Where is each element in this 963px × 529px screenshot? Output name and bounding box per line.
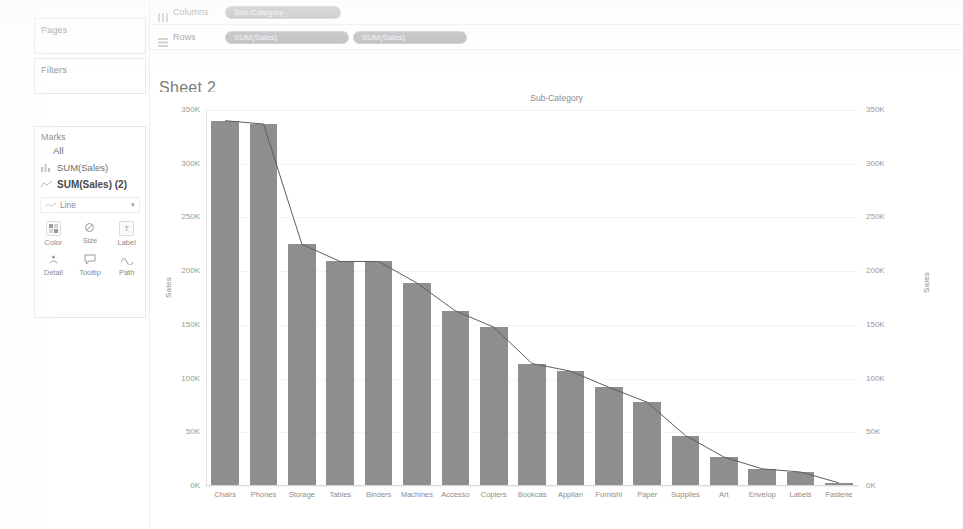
column-header-sub-category: Sub-Category [150, 93, 963, 103]
left-axis-tick: 250K [166, 213, 200, 221]
line-chart-icon [41, 180, 52, 189]
plot-area [206, 110, 858, 486]
marks-property-grid: Color Size T Label Detail [35, 219, 145, 279]
category-label[interactable]: Art [705, 490, 743, 499]
right-axis-tick: 350K [862, 106, 900, 114]
category-label[interactable]: Paper [628, 490, 666, 499]
bar-envelop[interactable] [748, 469, 776, 486]
right-axis-tick: 0K [862, 482, 900, 490]
category-label[interactable]: Furnishi [590, 490, 628, 499]
category-label[interactable]: Fastene [820, 490, 858, 499]
right-axis-tick: 50K [862, 428, 900, 436]
chevron-down-icon: ▾ [131, 201, 135, 209]
bar-tables[interactable] [326, 261, 354, 486]
bar-slot [475, 110, 513, 486]
marks-card-all[interactable]: All [35, 142, 145, 159]
bar-slot [206, 110, 244, 486]
bar-storage[interactable] [288, 244, 316, 486]
marks-card-sum-sales-2-label: SUM(Sales) (2) [57, 179, 127, 190]
bar-slot [743, 110, 781, 486]
tooltip-button-label: Tooltip [79, 268, 101, 277]
category-label[interactable]: Tables [321, 490, 359, 499]
x-axis-baseline [206, 485, 858, 486]
right-axis-tick: 100K [862, 375, 900, 383]
category-label[interactable]: Bookcas [513, 490, 551, 499]
bar-paper[interactable] [633, 402, 661, 486]
bar-accesso[interactable] [442, 311, 470, 486]
bar-furnishi[interactable] [595, 387, 623, 486]
pill-sum-sales-2[interactable]: SUM(Sales) [353, 31, 467, 44]
bar-slot [820, 110, 858, 486]
detail-icon [47, 253, 60, 266]
marks-card-sum-sales[interactable]: SUM(Sales) [35, 159, 145, 176]
category-label[interactable]: Applian [551, 490, 589, 499]
marks-card-sum-sales-label: SUM(Sales) [57, 162, 108, 173]
left-axis-tick: 0K [166, 482, 200, 490]
filters-label: Filters [35, 59, 145, 75]
bar-slot [705, 110, 743, 486]
columns-shelf-label: Columns [173, 7, 225, 17]
bar-supplies[interactable] [672, 436, 700, 486]
path-icon [120, 253, 133, 266]
mark-type-dropdown[interactable]: Line ▾ [40, 197, 140, 213]
marks-card-sum-sales-2[interactable]: SUM(Sales) (2) [35, 176, 145, 193]
bar-slot [359, 110, 397, 486]
pages-shelf[interactable]: Pages [34, 18, 146, 54]
marks-all-label: All [53, 145, 64, 156]
right-axis-ticks: 0K50K100K150K200K250K300K350K [862, 92, 896, 529]
bar-slot [781, 110, 819, 486]
bar-art[interactable] [710, 457, 738, 486]
bar-phones[interactable] [250, 124, 278, 486]
bar-chart-icon [41, 163, 52, 172]
bar-slot [551, 110, 589, 486]
bar-binders[interactable] [365, 261, 393, 486]
bar-chairs[interactable] [211, 121, 239, 486]
bar-bookcas[interactable] [518, 364, 546, 486]
filters-shelf[interactable]: Filters [34, 58, 146, 94]
bar-slot [436, 110, 474, 486]
left-axis-ticks: 0K50K100K150K200K250K300K350K [166, 92, 200, 529]
mark-type-value: Line [60, 200, 76, 210]
rows-icon [158, 33, 168, 42]
category-label[interactable]: Storage [283, 490, 321, 499]
category-label[interactable]: Machines [398, 490, 436, 499]
color-icon [46, 221, 61, 236]
bar-series [206, 110, 858, 486]
bar-applian[interactable] [557, 371, 585, 486]
bar-slot [666, 110, 704, 486]
columns-shelf[interactable]: Columns Sub-Category [150, 0, 963, 25]
pill-sub-category[interactable]: Sub-Category [225, 6, 341, 19]
gridline [206, 486, 858, 487]
label-icon: T [119, 221, 134, 236]
bar-copiers[interactable] [480, 327, 508, 486]
color-button[interactable]: Color [35, 219, 72, 249]
rows-shelf[interactable]: Rows SUM(Sales) SUM(Sales) [150, 25, 963, 50]
category-label[interactable]: Supplies [666, 490, 704, 499]
right-axis-tick: 300K [862, 160, 900, 168]
left-axis-tick: 200K [166, 267, 200, 275]
tooltip-button[interactable]: Tooltip [72, 251, 109, 279]
label-button[interactable]: T Label [108, 219, 145, 249]
columns-icon [158, 8, 168, 17]
right-axis-tick: 200K [862, 267, 900, 275]
category-label[interactable]: Envelop [743, 490, 781, 499]
category-label[interactable]: Phones [244, 490, 282, 499]
size-button[interactable]: Size [72, 219, 109, 249]
left-axis-tick: 100K [166, 375, 200, 383]
category-label[interactable]: Chairs [206, 490, 244, 499]
category-label[interactable]: Accesso [436, 490, 474, 499]
line-mark-icon [45, 201, 56, 210]
size-button-label: Size [83, 236, 98, 245]
category-label[interactable]: Labels [781, 490, 819, 499]
category-label[interactable]: Binders [359, 490, 397, 499]
bar-labels[interactable] [787, 472, 815, 486]
path-button[interactable]: Path [108, 251, 145, 279]
category-label[interactable]: Copiers [475, 490, 513, 499]
right-axis-tick: 250K [862, 213, 900, 221]
bar-machines[interactable] [403, 283, 431, 486]
category-axis-labels: ChairsPhonesStorageTablesBindersMachines… [206, 490, 858, 499]
left-axis-tick: 350K [166, 106, 200, 114]
pill-sum-sales-1[interactable]: SUM(Sales) [225, 31, 349, 44]
detail-button[interactable]: Detail [35, 251, 72, 279]
path-button-label: Path [119, 268, 134, 277]
